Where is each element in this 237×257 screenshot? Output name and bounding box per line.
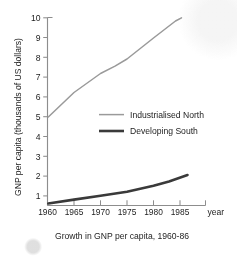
y-tick-label-1: 1 <box>36 191 41 201</box>
legend-entry-developing-south: Developing South <box>99 126 198 136</box>
y-tick-label-3: 3 <box>36 152 41 162</box>
y-tick-label-9: 9 <box>36 33 41 43</box>
x-axis: 1960 1965 1970 1975 1980 1985 year <box>38 200 224 217</box>
x-tick-label-1985: 1985 <box>171 207 190 217</box>
series-line-developing-south <box>48 175 187 204</box>
legend: Industrialised North Developing South <box>99 110 204 136</box>
y-tick-label-6: 6 <box>36 92 41 102</box>
legend-entry-industrialised-north: Industrialised North <box>99 110 204 120</box>
x-tick-label-1965: 1965 <box>65 207 84 217</box>
y-tick-label-5: 5 <box>36 112 41 122</box>
legend-label-industrialised-north: Industrialised North <box>130 110 204 120</box>
x-tick-label-1980: 1980 <box>144 207 163 217</box>
y-tick-label-10: 10 <box>31 13 41 23</box>
chart-caption: Growth in GNP per capita, 1960-86 <box>55 231 189 241</box>
x-tick-label-1975: 1975 <box>118 207 137 217</box>
x-tick-label-1970: 1970 <box>91 207 110 217</box>
y-axis: 10 9 8 7 6 5 4 3 2 1 GNP per capita (tho… <box>13 13 53 206</box>
y-tick-label-2: 2 <box>36 171 41 181</box>
x-axis-title: year <box>208 207 225 217</box>
y-tick-label-7: 7 <box>36 72 41 82</box>
series-line-industrialised-north <box>48 18 181 117</box>
gnp-growth-line-chart: 10 9 8 7 6 5 4 3 2 1 GNP per capita (tho… <box>0 0 237 257</box>
y-axis-title: GNP per capita (thousands of US dollars) <box>13 38 23 196</box>
y-tick-label-8: 8 <box>36 53 41 63</box>
legend-label-developing-south: Developing South <box>130 126 198 136</box>
y-tick-label-4: 4 <box>36 132 41 142</box>
x-tick-label-1960: 1960 <box>38 207 57 217</box>
